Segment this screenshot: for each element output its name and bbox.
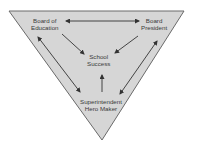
node-school-success: School Success (87, 53, 110, 68)
node-board-president-line1: Board (141, 17, 167, 24)
node-superintendent-line1: Superintendent (80, 98, 122, 105)
node-board-president-line2: President (141, 24, 167, 31)
node-board-of-education-line1: Board of (31, 17, 59, 24)
node-school-success-line1: School (87, 53, 110, 60)
node-school-success-line2: Success (87, 60, 110, 67)
node-superintendent: Superintendent Hero Maker (80, 98, 122, 113)
node-board-president: Board President (141, 17, 167, 32)
node-board-of-education-line2: Education (31, 24, 59, 31)
node-superintendent-line2: Hero Maker (80, 105, 122, 112)
node-board-of-education: Board of Education (31, 17, 59, 32)
